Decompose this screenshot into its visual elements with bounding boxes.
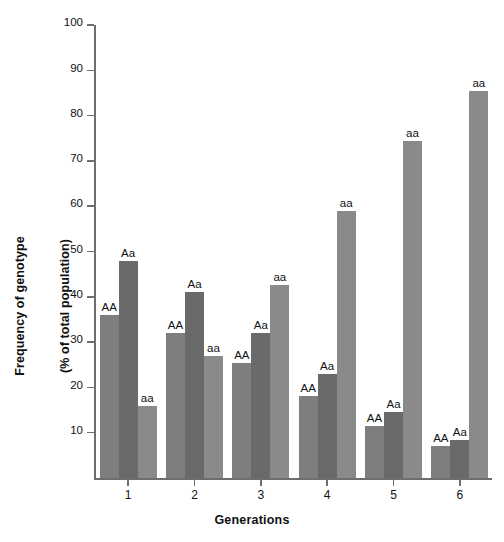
bar-label-gen3-AA: AA bbox=[234, 349, 249, 361]
bar-label-gen5-aa: aa bbox=[406, 127, 419, 139]
bar-gen4-AA: AA bbox=[299, 396, 318, 478]
x-tick-label-4: 4 bbox=[307, 488, 347, 502]
x-tick-2 bbox=[194, 478, 196, 486]
y-tick-label-90: 90 bbox=[70, 62, 83, 74]
bar-label-gen1-Aa: Aa bbox=[121, 247, 135, 259]
y-axis-title: Frequency of genotype (% of total popula… bbox=[0, 186, 103, 426]
bar-gen1-AA: AA bbox=[100, 315, 119, 478]
y-tick-20: 20 bbox=[87, 387, 94, 389]
bar-gen4-Aa: Aa bbox=[318, 374, 337, 478]
x-tick-3 bbox=[260, 478, 262, 486]
x-tick-label-2: 2 bbox=[175, 488, 215, 502]
bar-gen1-Aa: Aa bbox=[119, 261, 138, 478]
bar-label-gen3-aa: aa bbox=[273, 271, 286, 283]
y-tick-label-30: 30 bbox=[70, 333, 83, 345]
x-tick-label-6: 6 bbox=[440, 488, 480, 502]
bar-gen6-aa: aa bbox=[469, 91, 488, 478]
bar-label-gen2-Aa: Aa bbox=[187, 278, 201, 290]
bar-gen5-Aa: Aa bbox=[384, 412, 403, 478]
x-axis-line bbox=[94, 478, 492, 480]
y-axis-line bbox=[94, 25, 96, 478]
bar-gen4-aa: aa bbox=[337, 211, 356, 478]
y-tick-label-70: 70 bbox=[70, 152, 83, 164]
y-tick-label-20: 20 bbox=[70, 379, 83, 391]
bar-label-gen6-AA: AA bbox=[433, 432, 448, 444]
y-tick-30: 30 bbox=[87, 341, 94, 343]
bar-gen5-aa: aa bbox=[403, 141, 422, 478]
bar-label-gen2-aa: aa bbox=[207, 342, 220, 354]
x-tick-1 bbox=[127, 478, 129, 486]
bar-gen1-aa: aa bbox=[138, 406, 157, 478]
x-tick-label-5: 5 bbox=[374, 488, 414, 502]
bar-gen2-AA: AA bbox=[166, 333, 185, 478]
x-tick-label-3: 3 bbox=[241, 488, 281, 502]
y-tick-label-10: 10 bbox=[70, 424, 83, 436]
bar-gen5-AA: AA bbox=[365, 426, 384, 478]
y-tick-label-80: 80 bbox=[70, 107, 83, 119]
y-tick-label-40: 40 bbox=[70, 288, 83, 300]
x-tick-5 bbox=[393, 478, 395, 486]
plot-area: 102030405060708090100 123456 AAAaaaAAAaa… bbox=[94, 25, 492, 478]
bar-label-gen5-AA: AA bbox=[367, 412, 382, 424]
y-tick-80: 80 bbox=[87, 115, 94, 117]
bar-gen3-aa: aa bbox=[270, 285, 289, 478]
bar-label-gen4-aa: aa bbox=[340, 197, 353, 209]
x-tick-label-1: 1 bbox=[108, 488, 148, 502]
y-tick-40: 40 bbox=[87, 296, 94, 298]
bar-gen3-Aa: Aa bbox=[251, 333, 270, 478]
y-tick-70: 70 bbox=[87, 160, 94, 162]
bar-label-gen1-aa: aa bbox=[141, 392, 154, 404]
bar-label-gen4-AA: AA bbox=[300, 382, 315, 394]
bar-gen2-aa: aa bbox=[204, 356, 223, 478]
y-tick-label-100: 100 bbox=[64, 16, 83, 28]
x-tick-6 bbox=[459, 478, 461, 486]
bar-label-gen6-Aa: Aa bbox=[453, 426, 467, 438]
bar-label-gen5-Aa: Aa bbox=[386, 398, 400, 410]
x-tick-4 bbox=[326, 478, 328, 486]
y-axis-title-line1: Frequency of genotype bbox=[13, 186, 28, 426]
bar-gen6-Aa: Aa bbox=[450, 440, 469, 479]
y-tick-label-60: 60 bbox=[70, 197, 83, 209]
bar-label-gen3-Aa: Aa bbox=[254, 319, 268, 331]
bar-label-gen4-Aa: Aa bbox=[320, 360, 334, 372]
bar-gen6-AA: AA bbox=[431, 446, 450, 478]
bar-gen3-AA: AA bbox=[232, 363, 251, 479]
y-tick-50: 50 bbox=[87, 251, 94, 253]
bar-label-gen2-AA: AA bbox=[168, 319, 183, 331]
y-tick-60: 60 bbox=[87, 205, 94, 207]
y-tick-label-50: 50 bbox=[70, 243, 83, 255]
bar-chart: Frequency of genotype (% of total popula… bbox=[0, 0, 504, 542]
bar-label-gen1-AA: AA bbox=[101, 301, 116, 313]
x-axis-title: Generations bbox=[0, 513, 504, 527]
y-tick-90: 90 bbox=[87, 70, 94, 72]
bar-gen2-Aa: Aa bbox=[185, 292, 204, 478]
y-tick-100: 100 bbox=[87, 24, 94, 26]
y-tick-10: 10 bbox=[87, 432, 94, 434]
bar-label-gen6-aa: aa bbox=[472, 77, 485, 89]
